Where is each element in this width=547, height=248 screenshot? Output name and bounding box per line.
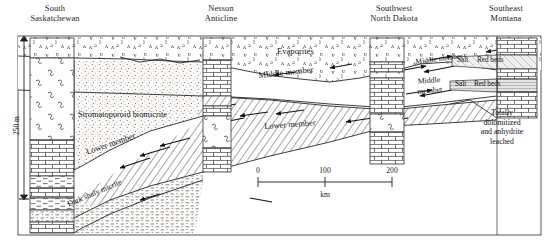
- facies-tag-red-beds-lower: Red beds: [474, 80, 501, 88]
- unit-label-stromatoporoid-biomicrite: Stromatoporoid biomicrite: [78, 110, 167, 119]
- location-label-south-saskatchewan: South Saskatchewan: [0, 4, 110, 23]
- location-label-southwest-north-dakota: Southwest North Dakota: [344, 4, 444, 23]
- well-column-north-dakota: [370, 38, 404, 164]
- unit-label-middle-member-right-lower: Middle membet: [416, 75, 443, 97]
- facies-tag-red-beds-upper: Red beds: [477, 56, 504, 64]
- well-column-nesson: [203, 38, 231, 172]
- scale-tick-0: 0: [248, 166, 268, 175]
- scale-unit-label: km: [313, 190, 337, 199]
- facies-tag-salt-lower: Salt: [455, 80, 466, 88]
- scale-tick-100: 100: [313, 166, 337, 175]
- location-label-nesson-anticline: Nesson Anticline: [175, 4, 267, 23]
- figure-canvas: vʋ ɔʌ ʇʌ: [0, 0, 547, 248]
- location-label-southeast-montana: Southeast Montana: [465, 4, 547, 23]
- well-column-montana: [497, 38, 537, 118]
- unit-label-totally-dolomitized: Totally dolomitized and anhydrite leache…: [460, 108, 544, 146]
- facies-tag-salt-upper: Salt: [457, 56, 468, 64]
- unit-label-evaporites: Evaporites: [277, 46, 314, 56]
- vertical-scale-label: 250 m: [12, 116, 21, 135]
- scale-tick-200: 200: [380, 166, 404, 175]
